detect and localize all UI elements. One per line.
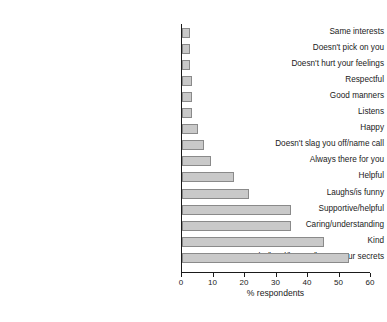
bar — [182, 237, 324, 247]
bar — [182, 156, 211, 166]
bar — [182, 205, 291, 215]
bar — [182, 108, 192, 118]
bar — [182, 124, 198, 134]
bar — [182, 76, 192, 86]
bar — [182, 189, 249, 199]
bar — [182, 172, 234, 182]
bar — [182, 28, 190, 38]
x-axis-title: % respondents — [181, 288, 370, 299]
x-axis-tick-label: 20 — [240, 278, 249, 288]
x-axis-tick — [370, 273, 371, 277]
x-axis-tick — [276, 273, 277, 277]
bar — [182, 60, 190, 70]
x-axis-tick-label: 30 — [271, 278, 280, 288]
x-axis-tick — [339, 273, 340, 277]
x-axis-tick-label: 40 — [303, 278, 312, 288]
x-axis-tick-label: 0 — [179, 278, 183, 288]
plot-area: 0102030405060 — [181, 24, 370, 272]
bar — [182, 44, 190, 54]
x-axis-tick — [213, 273, 214, 277]
x-axis-tick-label: 10 — [208, 278, 217, 288]
x-axis-tick — [244, 273, 245, 277]
x-axis-tick — [307, 273, 308, 277]
caption-artifact — [190, 308, 380, 316]
bar — [182, 92, 192, 102]
x-axis-tick — [181, 273, 182, 277]
x-axis-tick-label: 60 — [366, 278, 375, 288]
bar-chart-figure: Same interestsDoesn't pick on youDoesn't… — [0, 0, 387, 322]
bar — [182, 253, 349, 263]
bar — [182, 221, 291, 231]
x-axis-tick-label: 50 — [334, 278, 343, 288]
bar — [182, 140, 204, 150]
